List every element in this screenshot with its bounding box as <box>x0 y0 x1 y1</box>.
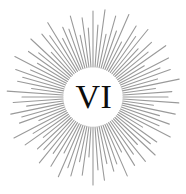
sunburst-ray <box>88 28 91 67</box>
sunburst-ray <box>116 52 148 78</box>
sunburst-ray <box>27 101 64 106</box>
sunburst-rays <box>0 0 186 194</box>
sunburst-emblem: VI <box>0 0 186 194</box>
sunburst-ray <box>32 89 64 93</box>
sunburst-ray <box>123 88 156 93</box>
sunburst-ray <box>89 127 91 157</box>
sunburst-ray <box>110 37 135 73</box>
